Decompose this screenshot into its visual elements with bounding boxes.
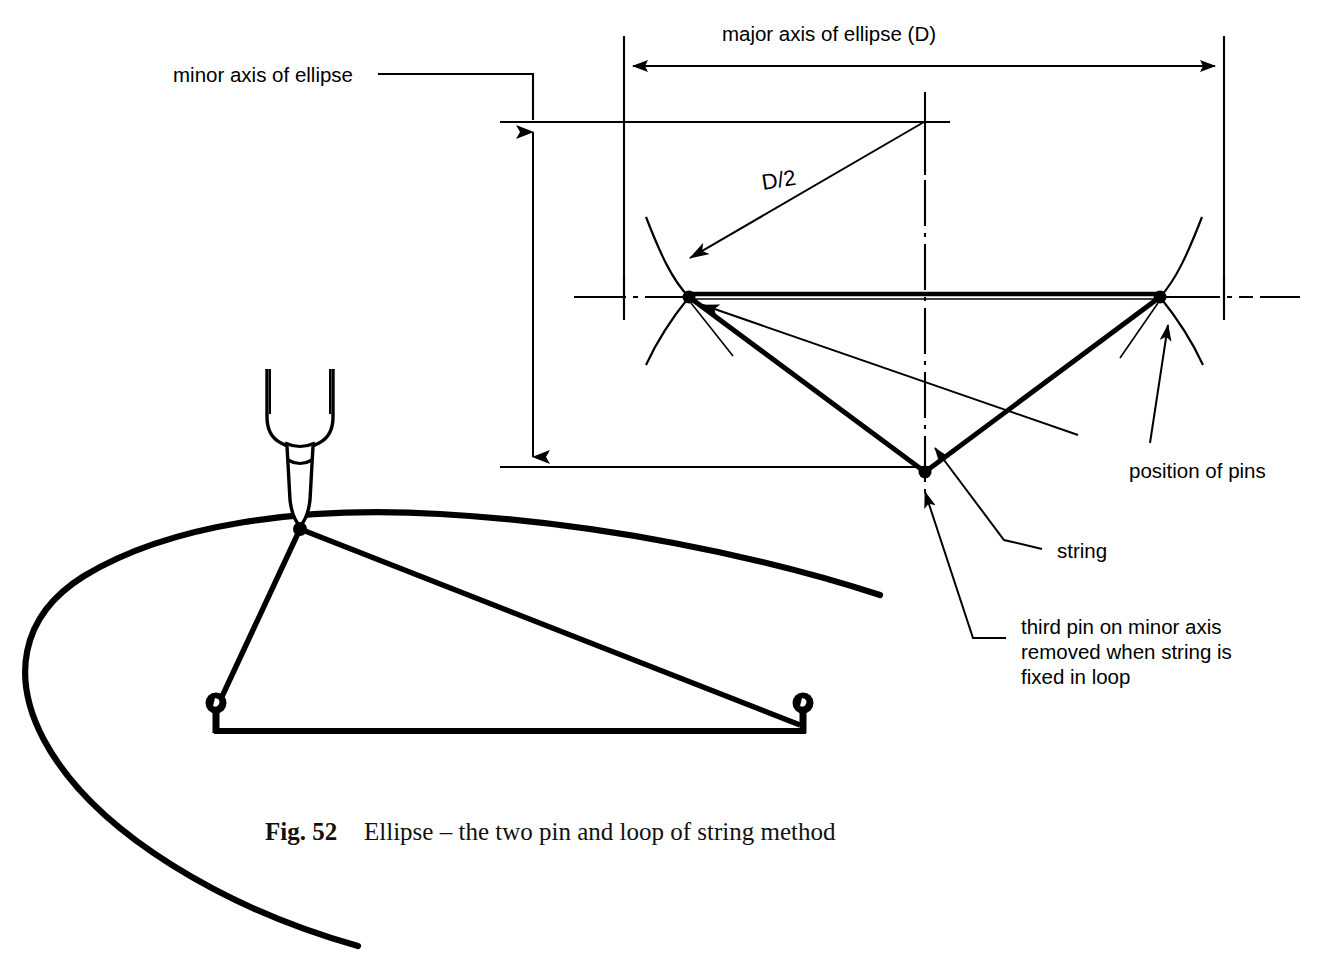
position-of-pins-leader-left (703, 305, 1078, 435)
right-pin (793, 693, 814, 734)
right-focus-pin-dot (1154, 291, 1167, 304)
minor-axis-leader (378, 74, 533, 120)
third-pin-label-line1: third pin on minor axis (1021, 615, 1222, 638)
string-pen-to-left-pin (219, 529, 300, 703)
third-pin-label-line3: fixed in loop (1021, 665, 1130, 688)
third-pin-label-line2: removed when string is (1021, 640, 1232, 663)
figure-page: major axis of ellipse (D) minor axis of … (0, 0, 1327, 979)
radius-label: D/2 (760, 165, 798, 195)
figure-caption-text: Ellipse – the two pin and loop of string… (364, 818, 836, 845)
major-axis-label: major axis of ellipse (D) (722, 22, 936, 45)
position-of-pins-label: position of pins (1129, 459, 1266, 482)
figure-caption: Fig. 52 Ellipse – the two pin and loop o… (265, 818, 836, 845)
ellipse-arc-left (646, 217, 689, 365)
string-pen-to-right-pin (300, 529, 800, 725)
left-pin (206, 693, 227, 734)
radius-dimension-arrow (690, 122, 924, 258)
practical-diagram (25, 369, 880, 946)
ellipse-arc-right (1160, 217, 1203, 365)
ellipse-figure-canvas: major axis of ellipse (D) minor axis of … (0, 0, 1327, 979)
figure-number: Fig. 52 (265, 818, 337, 845)
construction-diagram: major axis of ellipse (D) minor axis of … (173, 22, 1300, 688)
left-focus-pin-dot (683, 291, 696, 304)
minor-axis-label: minor axis of ellipse (173, 63, 353, 86)
string-leader (935, 448, 1042, 549)
position-of-pins-leader-right (1150, 325, 1168, 443)
third-pin-dot (919, 466, 932, 479)
third-pin-leader (925, 492, 1006, 638)
string-label: string (1057, 539, 1107, 562)
